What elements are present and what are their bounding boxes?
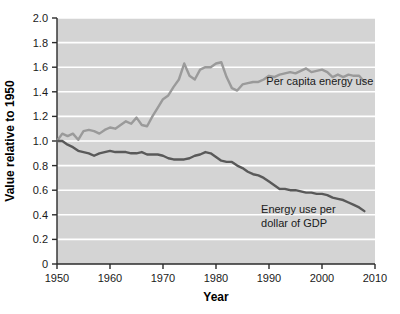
- series-label-energy-use-per-dollar-of-gdp-line2: dollar of GDP: [261, 217, 327, 229]
- y-axis-tick-label: 1.6: [33, 61, 48, 73]
- energy-trend-line-chart: 00.20.40.60.81.01.21.41.61.82.0 19501960…: [0, 0, 400, 314]
- x-axis-tick-label: 2000: [310, 272, 334, 284]
- y-axis-tick-label: 1.0: [33, 135, 48, 147]
- y-axis-tick-label: 0: [42, 258, 48, 270]
- x-axis-title: Year: [203, 290, 229, 304]
- y-axis-tick-label: 0.8: [33, 160, 48, 172]
- y-axis-tick-label: 1.4: [33, 86, 48, 98]
- chart-figure: 00.20.40.60.81.01.21.41.61.82.0 19501960…: [0, 0, 400, 314]
- y-axis-tick-label: 1.8: [33, 37, 48, 49]
- x-axis-tick-label: 1970: [151, 272, 175, 284]
- x-axis-tick-label: 1950: [45, 272, 69, 284]
- series-label-per-capita-energy-use: Per capita energy use: [266, 75, 373, 87]
- x-axis-tick-label: 1980: [204, 272, 228, 284]
- y-axis-tick-label: 2.0: [33, 12, 48, 24]
- x-axis-tick-label: 2010: [363, 272, 387, 284]
- series-label-energy-use-per-dollar-of-gdp-line1: Energy use per: [261, 203, 336, 215]
- x-axis-tick-label: 1990: [257, 272, 281, 284]
- y-axis-tick-label: 0.2: [33, 233, 48, 245]
- x-axis-tick-label: 1960: [98, 272, 122, 284]
- y-axis-tick-label: 1.2: [33, 110, 48, 122]
- y-axis-tick-label: 0.6: [33, 184, 48, 196]
- y-axis-title: Value relative to 1950: [3, 80, 17, 202]
- y-axis-tick-label: 0.4: [33, 209, 48, 221]
